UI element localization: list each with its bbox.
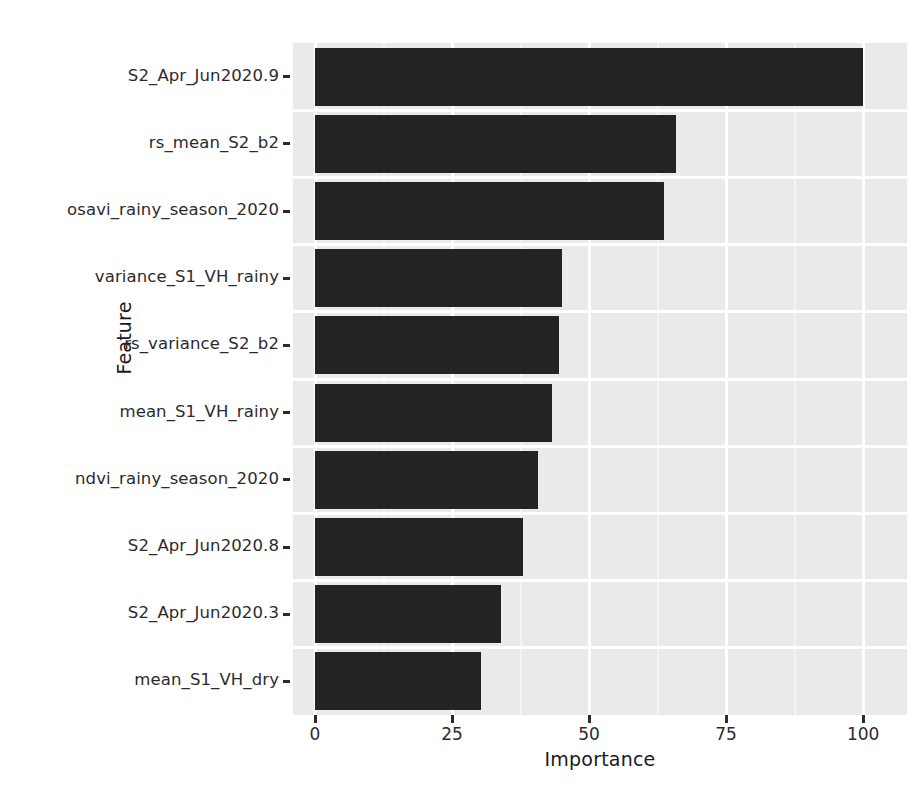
x-axis-tick-label: 100 <box>847 724 879 744</box>
y-axis-tick-mark <box>283 344 290 347</box>
gridline-horizontal <box>293 512 907 515</box>
x-axis-tick-mark <box>588 715 591 723</box>
bar <box>315 316 559 374</box>
gridline-horizontal <box>293 310 907 313</box>
gridline-horizontal <box>293 579 907 582</box>
x-axis-tick-label: 50 <box>578 724 600 744</box>
y-axis-tick-marks <box>0 43 293 715</box>
bar <box>315 518 523 576</box>
y-axis-tick-mark <box>283 277 290 280</box>
x-axis-tick-mark <box>862 715 865 723</box>
bar-chart-figure: Feature S2_Apr_Jun2020.9rs_mean_S2_b2osa… <box>0 0 924 794</box>
bar <box>315 384 552 442</box>
x-axis-tick-labels: 0255075100 <box>293 724 907 748</box>
bar <box>315 451 538 509</box>
x-axis-tick-label: 75 <box>715 724 737 744</box>
x-axis-tick-mark <box>451 715 454 723</box>
bar <box>315 48 863 106</box>
x-axis-title: Importance <box>293 748 907 770</box>
y-axis-tick-mark <box>283 546 290 549</box>
y-axis-tick-mark <box>283 411 290 414</box>
x-axis-tick-mark <box>314 715 317 723</box>
gridline-horizontal <box>293 243 907 246</box>
bar <box>315 585 501 643</box>
bar <box>315 182 664 240</box>
plot-panel <box>293 43 907 715</box>
gridline-horizontal <box>293 646 907 649</box>
bar <box>315 652 481 710</box>
y-axis-tick-mark <box>283 75 290 78</box>
y-axis-tick-mark <box>283 210 290 213</box>
gridline-horizontal <box>293 176 907 179</box>
x-axis-tick-label: 25 <box>441 724 463 744</box>
bar <box>315 115 676 173</box>
x-axis-tick-mark <box>725 715 728 723</box>
gridline-horizontal <box>293 109 907 112</box>
bar <box>315 249 562 307</box>
y-axis-tick-mark <box>283 142 290 145</box>
gridline-horizontal <box>293 445 907 448</box>
y-axis-tick-mark <box>283 478 290 481</box>
y-axis-tick-mark <box>283 680 290 683</box>
gridline-horizontal <box>293 378 907 381</box>
x-axis-tick-label: 0 <box>310 724 321 744</box>
y-axis-tick-mark <box>283 613 290 616</box>
